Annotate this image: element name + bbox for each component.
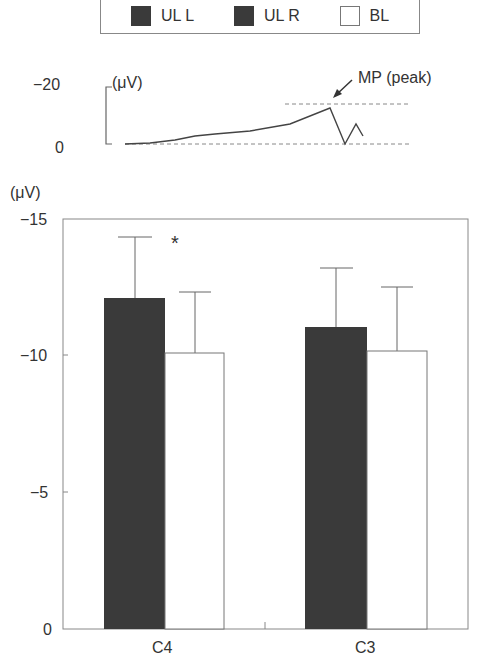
inset-y-tick-bottom: 0: [55, 139, 64, 156]
bar-c3-bl: [367, 351, 427, 629]
inset-y-unit: (μV): [112, 74, 143, 91]
bar-c3-ul: [305, 327, 367, 629]
waveform-line: [125, 108, 363, 144]
inset-y-tick-top: −20: [33, 76, 60, 93]
main-bar-chart: (μV) −15 −10 −5 0 * C4 C3: [10, 184, 468, 656]
x-label-c4: C4: [152, 639, 173, 656]
chart-canvas: −20 0 (μV) MP (peak) (μV) −15 −10 −5 0 *: [0, 0, 484, 667]
y-tick-15: −15: [20, 211, 47, 228]
mp-peak-annotation: MP (peak): [358, 69, 432, 86]
bar-c4-ul: [104, 298, 165, 629]
y-tick-0: 0: [43, 621, 52, 638]
x-label-c3: C3: [355, 639, 376, 656]
inset-waveform: −20 0 (μV) MP (peak): [33, 69, 432, 156]
significance-marker: *: [171, 232, 179, 254]
bar-c4-bl: [165, 353, 224, 629]
main-y-unit: (μV): [10, 184, 41, 201]
y-tick-5: −5: [30, 484, 48, 501]
y-tick-10: −10: [20, 347, 47, 364]
